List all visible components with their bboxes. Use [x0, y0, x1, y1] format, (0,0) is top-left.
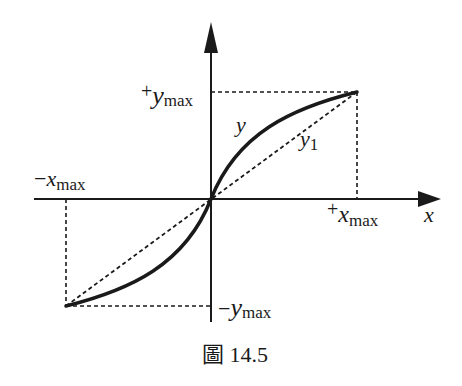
x-axis-label: x	[423, 202, 434, 227]
neg-ymax-label: −ymax	[218, 293, 272, 322]
pos-ymax-label: +ymax	[141, 80, 194, 110]
neg-xmax-label: −xmax	[34, 166, 86, 194]
pos-xmax-label: +xmax	[327, 198, 379, 230]
y-axis-arrow-icon	[204, 22, 218, 53]
transfer-curve-figure: +ymax y y1 −xmax +xmax x −ymax 圖 14.5	[0, 0, 462, 386]
y1-line-label: y1	[298, 126, 318, 154]
figure-caption: 圖 14.5	[202, 342, 268, 367]
y-curve-label: y	[234, 112, 246, 137]
